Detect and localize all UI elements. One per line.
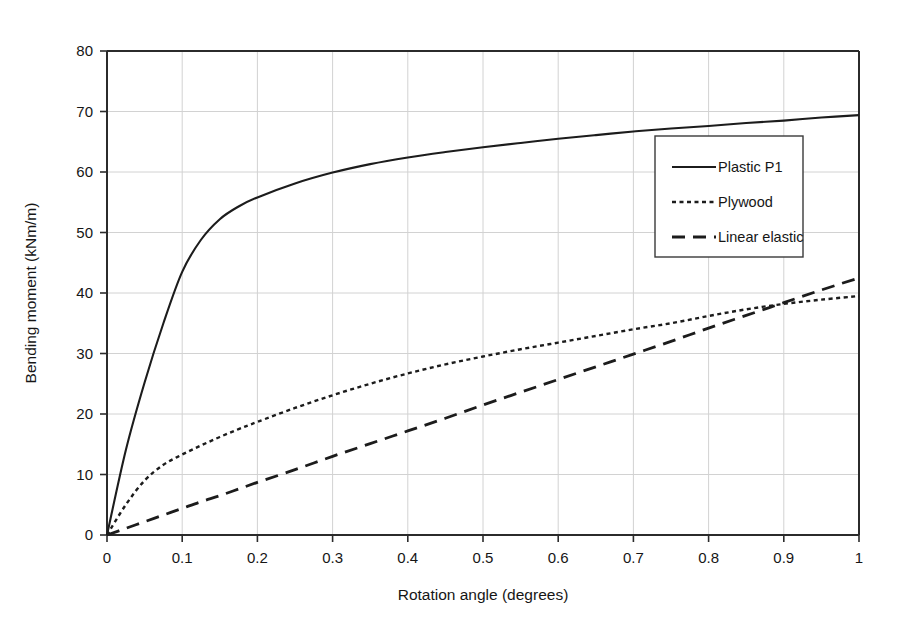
x-tick-label: 0 <box>103 549 111 566</box>
x-axis-tick-labels: 00.10.20.30.40.50.60.70.80.91 <box>103 549 863 566</box>
x-tick-label: 0.6 <box>548 549 569 566</box>
x-tick-label: 0.4 <box>397 549 418 566</box>
x-tick-label: 0.8 <box>698 549 719 566</box>
y-tick-label: 60 <box>76 163 93 180</box>
x-tick-label: 0.9 <box>773 549 794 566</box>
bending-moment-chart: 00.10.20.30.40.50.60.70.80.91 0102030405… <box>0 0 897 631</box>
y-tick-label: 40 <box>76 284 93 301</box>
tick-marks <box>100 51 859 542</box>
chart-figure: 00.10.20.30.40.50.60.70.80.91 0102030405… <box>0 0 897 631</box>
y-tick-label: 30 <box>76 345 93 362</box>
x-tick-label: 0.1 <box>172 549 193 566</box>
x-tick-label: 0.7 <box>623 549 644 566</box>
y-tick-label: 50 <box>76 224 93 241</box>
x-tick-label: 1 <box>855 549 863 566</box>
y-tick-label: 70 <box>76 103 93 120</box>
chart-legend: Plastic P1PlywoodLinear elastic <box>655 136 803 257</box>
y-tick-label: 10 <box>76 466 93 483</box>
x-tick-label: 0.5 <box>473 549 494 566</box>
x-tick-label: 0.2 <box>247 549 268 566</box>
legend-label-plastic-p1: Plastic P1 <box>718 159 782 175</box>
y-axis-tick-labels: 01020304050607080 <box>76 42 93 543</box>
y-axis-title: Bending moment (kNm/m) <box>22 203 39 384</box>
y-tick-label: 0 <box>85 526 93 543</box>
y-tick-label: 80 <box>76 42 93 59</box>
legend-label-plywood: Plywood <box>718 194 773 210</box>
x-axis-title: Rotation angle (degrees) <box>398 586 569 603</box>
legend-label-linear-elastic: Linear elastic <box>718 229 803 245</box>
y-tick-label: 20 <box>76 405 93 422</box>
x-tick-label: 0.3 <box>322 549 343 566</box>
